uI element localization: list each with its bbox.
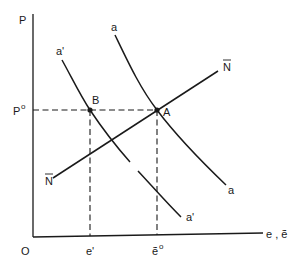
n-bar-label-bottom-text: N xyxy=(45,175,53,187)
e-tilde-0-tick-label: ẽ o xyxy=(152,242,164,257)
origin-label: O xyxy=(21,245,30,257)
point-a-dot xyxy=(154,107,159,112)
e-tilde-0-label-sup: o xyxy=(159,242,164,251)
curve-a-prime-label-bottom: a' xyxy=(186,211,194,223)
curve-a-prime-label-top: a' xyxy=(56,45,64,57)
line-n-bar xyxy=(53,71,218,178)
n-bar-label-bottom: N xyxy=(45,174,53,187)
x-axis-label: e , ẽ xyxy=(266,228,287,240)
y-axis-label: P xyxy=(19,14,26,26)
curve-a-label-top: a xyxy=(111,21,118,33)
point-b-dot xyxy=(87,107,92,112)
point-a-label: A xyxy=(163,106,171,118)
p0-tick-label: P o xyxy=(13,102,26,117)
e-tilde-0-label-base: ẽ xyxy=(152,245,158,257)
curve-a-prime-upper xyxy=(62,60,130,162)
curve-a-label-bottom: a xyxy=(228,184,235,196)
x-axis xyxy=(33,233,263,237)
economic-diagram: P e , ẽ O P o e' ẽ o a a a' a' N N A B xyxy=(0,0,302,268)
curve-a-prime-lower xyxy=(138,171,181,217)
point-b-label: B xyxy=(92,94,99,106)
guide-lines xyxy=(33,110,157,236)
n-bar-label-top-text: N xyxy=(223,61,231,73)
p0-label-base: P xyxy=(13,105,20,117)
p0-label-sup: o xyxy=(21,102,26,111)
e-prime-tick-label: e' xyxy=(86,245,94,257)
axes xyxy=(33,14,263,237)
curve-a-prime xyxy=(62,60,181,217)
n-bar-label-top: N xyxy=(223,60,231,73)
